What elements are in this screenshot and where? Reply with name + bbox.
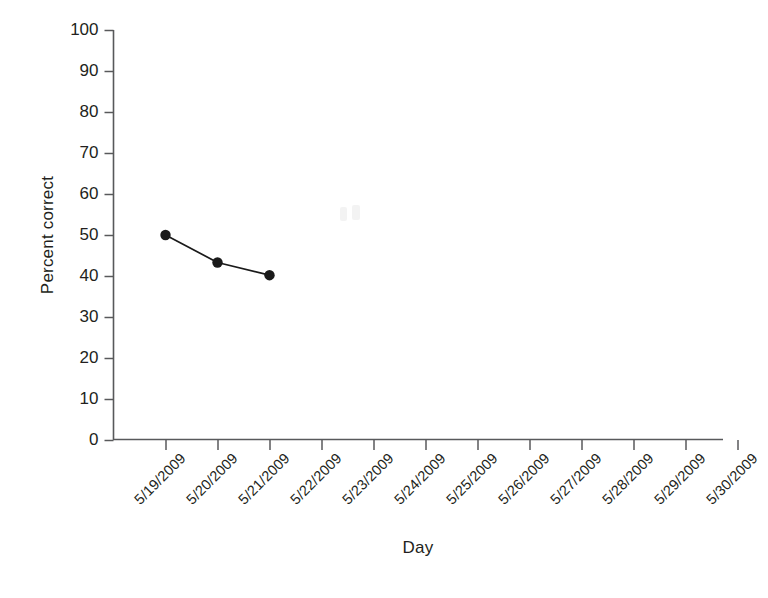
plot-area [0,0,768,598]
data-series-line [166,235,270,275]
axis-spine [113,30,723,440]
data-point-marker [160,230,170,240]
line-chart-figure: Percent correct Day 01020304050607080901… [0,0,768,598]
x-axis-tick-marks [166,440,738,450]
data-point-marker [264,270,274,280]
data-point-marker [212,257,222,267]
y-axis-tick-marks [105,31,114,441]
